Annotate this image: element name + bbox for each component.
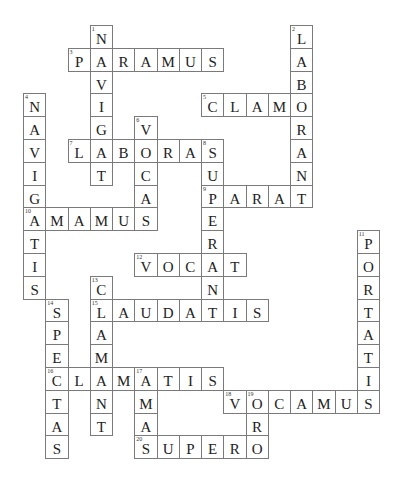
crossword-cell[interactable]: I [223,299,246,323]
crossword-cell[interactable]: T [157,367,180,391]
crossword-cell[interactable]: I [357,367,380,391]
crossword-cell[interactable]: S [246,299,269,323]
crossword-cell[interactable]: A [134,185,157,209]
crossword-cell[interactable]: A [246,93,269,117]
crossword-cell[interactable]: 8S [201,139,224,163]
crossword-cell[interactable]: R [246,185,269,209]
crossword-cell[interactable]: C [134,162,157,186]
crossword-cell[interactable]: R [223,435,246,459]
crossword-cell[interactable]: B [290,71,313,95]
crossword-cell[interactable]: A [290,390,313,414]
crossword-cell[interactable]: 14S [45,299,68,323]
crossword-cell[interactable]: A [45,413,68,437]
crossword-cell[interactable]: U [201,162,224,186]
crossword-cell[interactable]: G [23,185,46,209]
crossword-cell[interactable]: A [357,321,380,345]
crossword-cell[interactable]: A [68,207,91,231]
crossword-cell[interactable]: T [223,253,246,277]
crossword-cell[interactable]: S [45,435,68,459]
crossword-cell[interactable]: C [268,390,291,414]
crossword-cell[interactable]: O [357,253,380,277]
crossword-cell[interactable]: T [201,299,224,323]
crossword-cell[interactable]: A [179,139,202,163]
crossword-cell[interactable]: 2L [290,25,313,49]
crossword-cell[interactable]: 13C [90,276,113,300]
crossword-cell[interactable]: A [290,48,313,72]
crossword-cell[interactable]: M [90,207,113,231]
crossword-cell[interactable]: P [179,435,202,459]
crossword-cell[interactable]: D [157,299,180,323]
crossword-cell[interactable]: V [23,139,46,163]
crossword-cell[interactable]: 10A [23,207,46,231]
crossword-cell[interactable]: R [357,276,380,300]
crossword-cell[interactable]: M [90,344,113,368]
crossword-cell[interactable]: A [90,367,113,391]
crossword-cell[interactable]: A [290,139,313,163]
crossword-cell[interactable]: N [201,276,224,300]
crossword-cell[interactable]: A [179,299,202,323]
crossword-cell[interactable]: T [23,230,46,254]
crossword-cell[interactable]: I [23,162,46,186]
crossword-cell[interactable]: I [23,253,46,277]
crossword-cell[interactable]: I [90,93,113,117]
crossword-cell[interactable]: A [134,413,157,437]
crossword-cell[interactable]: O [246,435,269,459]
crossword-cell[interactable]: O [290,93,313,117]
crossword-cell[interactable]: A [90,139,113,163]
crossword-cell[interactable]: S [201,367,224,391]
crossword-cell[interactable]: U [157,435,180,459]
crossword-cell[interactable]: T [290,185,313,209]
crossword-cell[interactable]: R [246,413,269,437]
crossword-cell[interactable]: A [134,48,157,72]
crossword-cell[interactable]: U [335,390,358,414]
crossword-cell[interactable]: 12V [134,253,157,277]
crossword-cell[interactable]: E [45,344,68,368]
crossword-cell[interactable]: M [134,390,157,414]
crossword-cell[interactable]: S [134,207,157,231]
crossword-cell[interactable]: U [179,48,202,72]
crossword-cell[interactable]: A [23,116,46,140]
crossword-cell[interactable]: 4N [23,93,46,117]
crossword-cell[interactable]: L [68,367,91,391]
crossword-cell[interactable]: T [357,344,380,368]
crossword-cell[interactable]: 3P [68,48,91,72]
crossword-cell[interactable]: S [357,390,380,414]
crossword-cell[interactable]: 6V [134,116,157,140]
crossword-cell[interactable]: M [157,48,180,72]
crossword-cell[interactable]: E [201,207,224,231]
crossword-cell[interactable]: G [90,116,113,140]
crossword-cell[interactable]: R [157,139,180,163]
crossword-cell[interactable]: R [201,230,224,254]
crossword-cell[interactable]: A [268,185,291,209]
crossword-cell[interactable]: A [223,185,246,209]
crossword-cell[interactable]: S [23,276,46,300]
crossword-cell[interactable]: T [357,299,380,323]
crossword-cell[interactable]: T [90,162,113,186]
crossword-cell[interactable]: V [90,71,113,95]
crossword-cell[interactable]: M [112,367,135,391]
crossword-cell[interactable]: N [290,162,313,186]
crossword-cell[interactable]: T [45,390,68,414]
crossword-cell[interactable]: 5C [201,93,224,117]
crossword-cell[interactable]: B [112,139,135,163]
crossword-cell[interactable]: M [45,207,68,231]
crossword-cell[interactable]: M [268,93,291,117]
crossword-cell[interactable]: 18V [223,390,246,414]
crossword-cell[interactable]: O [157,253,180,277]
crossword-cell[interactable]: U [134,299,157,323]
crossword-cell[interactable]: U [112,207,135,231]
crossword-cell[interactable]: R [112,48,135,72]
crossword-cell[interactable]: 15L [90,299,113,323]
crossword-cell[interactable]: 11P [357,230,380,254]
crossword-cell[interactable]: P [45,321,68,345]
crossword-cell[interactable]: 1N [90,25,113,49]
crossword-cell[interactable]: 7L [68,139,91,163]
crossword-cell[interactable]: E [201,435,224,459]
crossword-cell[interactable]: 16C [45,367,68,391]
crossword-cell[interactable]: 9P [201,185,224,209]
crossword-cell[interactable]: T [90,413,113,437]
crossword-cell[interactable]: 19O [246,390,269,414]
crossword-cell[interactable]: 20S [134,435,157,459]
crossword-cell[interactable]: A [90,321,113,345]
crossword-cell[interactable]: 17A [134,367,157,391]
